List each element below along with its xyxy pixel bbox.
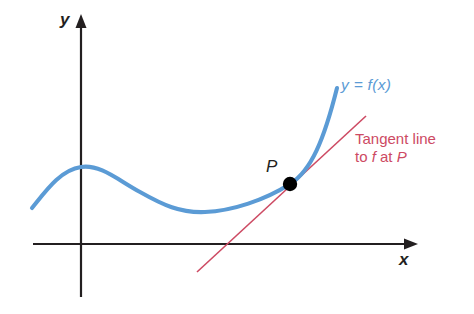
tangent-annotation-p: P [397,148,407,165]
y-axis-label: y [60,10,69,29]
tangent-line-figure: y x P y = f(x) Tangent line to f at P [0,0,474,314]
tangent-annotation-at: at [376,148,397,165]
tangent-annotation-line1: Tangent line [355,130,436,148]
function-equation-label: y = f(x) [341,76,391,93]
y-axis-arrowhead [76,14,87,28]
tangent-annotation-to: to [355,148,372,165]
tangent-annotation: Tangent line to f at P [355,130,436,167]
point-p-marker [283,177,297,191]
x-axis-label: x [399,250,408,269]
point-p-label: P [266,157,277,176]
tangent-line [197,116,366,272]
tangent-annotation-line2: to f at P [355,148,436,166]
x-axis-arrowhead [404,239,418,250]
function-curve [32,88,337,212]
